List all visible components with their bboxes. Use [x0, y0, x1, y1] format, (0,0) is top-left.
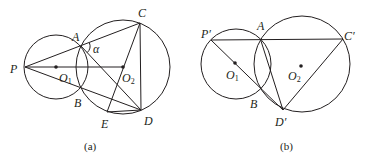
- center-dot-o2-prime: [299, 64, 303, 68]
- label-c-prime: C′: [344, 29, 355, 43]
- caption-b: (b): [280, 140, 293, 153]
- label-alpha: α: [93, 42, 100, 56]
- label-o2-prime: O2: [288, 69, 301, 84]
- label-c: C: [138, 6, 147, 20]
- center-dot-o1-prime: [233, 61, 237, 65]
- label-b: B: [74, 96, 82, 110]
- label-p: P: [9, 62, 18, 76]
- label-o1-prime: O1: [226, 68, 239, 83]
- label-p-prime: P′: [200, 27, 211, 41]
- figure-b: P′ A B C′ D′ O1 O2 (b): [200, 16, 355, 153]
- label-a-prime: A: [256, 19, 265, 33]
- line-p-c-prime: [211, 39, 343, 40]
- label-b-prime: B: [250, 97, 258, 111]
- angle-alpha-arc: [87, 43, 90, 53]
- center-dot-o1: [54, 65, 58, 69]
- figure-a: P A B C D E α O1 O2 (a): [9, 6, 170, 153]
- label-a: A: [71, 30, 80, 44]
- label-e: E: [100, 117, 109, 131]
- geometry-figure: P A B C D E α O1 O2 (a) P′ A B C′ D′ O1: [0, 0, 368, 163]
- center-dot-o2: [121, 65, 125, 69]
- caption-a: (a): [84, 140, 97, 153]
- line-cd: [140, 23, 141, 110]
- label-d: D: [143, 114, 153, 128]
- label-d-prime: D′: [274, 115, 287, 129]
- line-pc: [25, 23, 140, 67]
- label-o1: O1: [59, 71, 72, 86]
- label-o2: O2: [122, 71, 135, 86]
